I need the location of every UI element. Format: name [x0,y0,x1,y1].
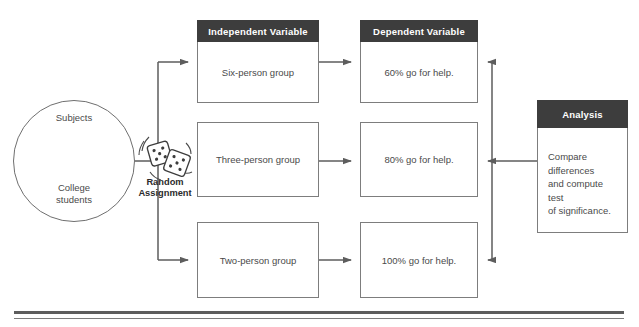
analysis-body-line2: and compute test [548,177,617,204]
dependent-row-1: 60% go for help. [360,42,478,103]
subjects-bottom-line2: students [13,194,135,206]
analysis-body-line3: of significance. [548,204,617,218]
bottom-rule-thin [14,318,624,319]
subjects-bottom-label: College students [13,182,135,206]
independent-row-3: Two-person group [197,222,319,298]
analysis-body: Compare differences and compute test of … [537,128,628,233]
analysis-header: Analysis [537,100,628,128]
random-assignment-label: Random Assignment [129,177,201,199]
dependent-variable-header: Dependent Variable [360,20,478,42]
dependent-row-2: 80% go for help. [360,122,478,197]
random-assignment-line2: Assignment [129,188,201,199]
bottom-rule-thick [14,311,624,314]
dice-icon [139,137,192,180]
independent-row-1: Six-person group [197,42,319,103]
subjects-top-label: Subjects [13,112,135,124]
independent-row-2: Three-person group [197,122,319,197]
analysis-body-line1: Compare differences [548,150,617,177]
diagram-canvas: Subjects College students Random Assignm… [0,0,639,327]
subjects-bottom-line1: College [13,182,135,194]
dependent-row-3: 100% go for help. [360,222,478,298]
independent-variable-header: Independent Variable [197,20,319,42]
random-assignment-line1: Random [129,177,201,188]
